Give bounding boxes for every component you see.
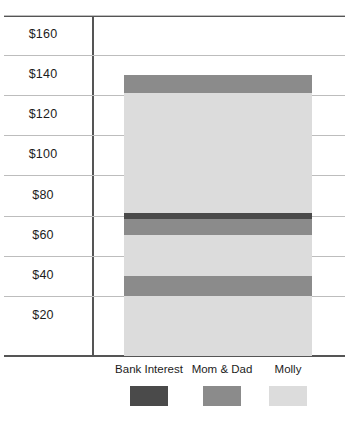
- y-axis-tick-label: $60: [0, 228, 86, 242]
- y-axis-tick-label: $140: [0, 67, 86, 81]
- plot-area: $160$140$120$100$80$60$40$20: [0, 0, 349, 360]
- stacked-bar-chart: $160$140$120$100$80$60$40$20 Bank Intere…: [0, 0, 349, 423]
- y-axis-tick-label: $20: [0, 308, 86, 322]
- stacked-bar: [124, 75, 312, 356]
- y-axis-tick-label: $100: [0, 147, 86, 161]
- bar-segment-molly: [124, 93, 312, 213]
- bar-segment-molly: [124, 235, 312, 275]
- bar-segment-mom-dad: [124, 219, 312, 235]
- gridline: [4, 55, 345, 56]
- y-axis-tick-label: $40: [0, 268, 86, 282]
- legend-label: Molly: [233, 362, 343, 376]
- bar-segment-mom-dad: [124, 75, 312, 93]
- y-axis-tick-label: $120: [0, 107, 86, 121]
- legend-item[interactable]: Molly: [233, 362, 343, 406]
- bar-segment-mom-dad: [124, 276, 312, 296]
- legend-swatch: [269, 386, 307, 406]
- bar-segment-molly: [124, 296, 312, 356]
- y-axis-tick-label: $160: [0, 27, 86, 41]
- chart-legend: Bank InterestMom & DadMolly: [0, 362, 349, 423]
- legend-swatch: [130, 386, 168, 406]
- y-axis-tick-label: $80: [0, 188, 86, 202]
- bar-segment-bank-interest: [124, 213, 312, 219]
- y-axis-line: [92, 15, 94, 357]
- gridline: [4, 15, 345, 16]
